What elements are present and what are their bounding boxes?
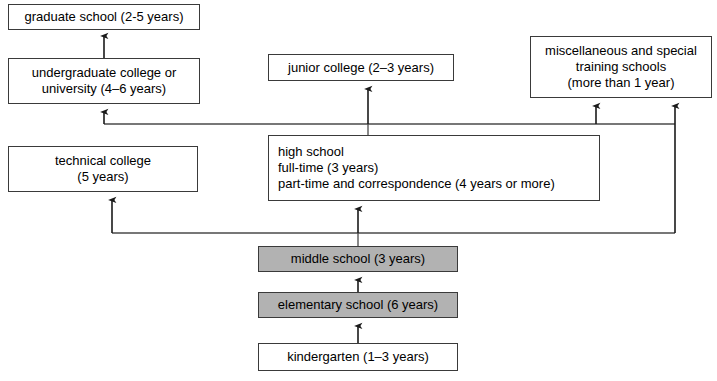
node-middle-school-line: middle school (3 years) — [291, 251, 425, 267]
node-undergraduate-college-line: undergraduate college or — [32, 65, 177, 81]
node-high-school-line: high school — [278, 144, 344, 160]
school-system-diagram: graduate school (2-5 years)undergraduate… — [0, 0, 717, 381]
node-high-school-line: full-time (3 years) — [278, 160, 378, 176]
node-technical-college-line: (5 years) — [77, 169, 128, 185]
node-miscellaneous-training-schools-line: (more than 1 year) — [568, 75, 675, 91]
node-technical-college-line: technical college — [55, 153, 151, 169]
node-elementary-school-line: elementary school (6 years) — [278, 297, 438, 313]
node-technical-college[interactable]: technical college(5 years) — [8, 146, 198, 192]
node-high-school[interactable]: high schoolfull-time (3 years)part-time … — [268, 135, 600, 201]
node-miscellaneous-training-schools-line: training schools — [576, 59, 666, 75]
node-graduate-school-line: graduate school (2-5 years) — [25, 9, 184, 25]
node-undergraduate-college[interactable]: undergraduate college oruniversity (4–6 … — [8, 58, 200, 104]
node-elementary-school[interactable]: elementary school (6 years) — [258, 292, 458, 318]
node-graduate-school[interactable]: graduate school (2-5 years) — [8, 4, 200, 30]
node-high-school-line: part-time and correspondence (4 years or… — [278, 176, 555, 192]
node-kindergarten-line: kindergarten (1–3 years) — [287, 349, 429, 365]
node-junior-college[interactable]: junior college (2–3 years) — [268, 54, 454, 81]
node-undergraduate-college-line: university (4–6 years) — [42, 81, 166, 97]
node-miscellaneous-training-schools-line: miscellaneous and special — [545, 43, 697, 59]
node-junior-college-line: junior college (2–3 years) — [288, 60, 434, 76]
node-middle-school[interactable]: middle school (3 years) — [258, 246, 458, 272]
node-kindergarten[interactable]: kindergarten (1–3 years) — [258, 343, 458, 371]
node-miscellaneous-training-schools[interactable]: miscellaneous and specialtraining school… — [530, 36, 712, 98]
